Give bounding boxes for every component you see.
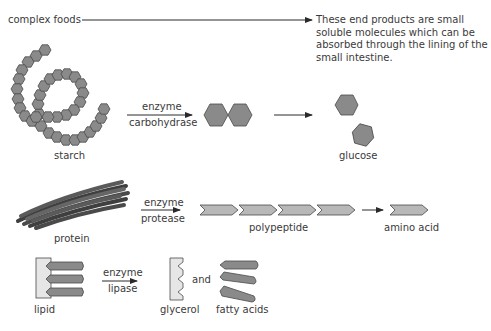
starch-label: starch <box>54 150 85 162</box>
polypeptide-label: polypeptide <box>249 222 308 234</box>
end-products-note: These end products are small soluble mol… <box>316 14 491 64</box>
lipase-label: lipase <box>108 283 137 295</box>
carbohydrase-label: carbohydrase <box>129 117 197 129</box>
enzyme-label-carbohydrate: enzyme <box>142 101 182 113</box>
lipid-label: lipid <box>34 304 55 316</box>
enzyme-label-lipid: enzyme <box>103 267 143 279</box>
polypeptide-icon <box>200 205 355 215</box>
fatty-acids-icon <box>220 261 258 302</box>
fatty-acids-label: fatty acids <box>216 304 269 316</box>
amino-acid-label: amino acid <box>384 222 439 234</box>
disaccharide-icon <box>204 104 252 126</box>
protease-label: protease <box>141 213 185 225</box>
amino-acid-icon <box>390 205 428 215</box>
glycerol-label: glycerol <box>160 304 199 316</box>
glucose-icon <box>335 95 376 148</box>
lipid-icon <box>36 258 84 298</box>
protein-fibre-icon <box>18 182 128 228</box>
and-label: and <box>192 274 211 286</box>
protein-label: protein <box>54 233 90 245</box>
starch-molecule-icon <box>11 45 110 145</box>
enzyme-label-protein: enzyme <box>144 197 184 209</box>
glycerol-icon <box>170 258 183 300</box>
glucose-label: glucose <box>339 150 377 162</box>
complex-foods-label: complex foods <box>8 14 81 26</box>
